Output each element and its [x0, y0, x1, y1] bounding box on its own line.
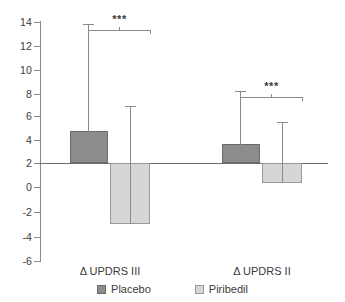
- y-tick-mark: [34, 116, 40, 117]
- y-tick-mark: [34, 22, 40, 23]
- y-tick-label: -6: [8, 256, 32, 266]
- y-tick-label: 14: [8, 17, 32, 27]
- y-tick-mark: [34, 70, 40, 71]
- bar-placebo-updrs2: [222, 144, 260, 163]
- significance-stars-updrs3: ***: [88, 14, 151, 25]
- y-tick-label: 0: [8, 182, 32, 192]
- y-tick-label: 6: [8, 111, 32, 121]
- y-tick-mark: [34, 237, 40, 238]
- error-bar-cap-piribedil-updrs2: [277, 122, 288, 123]
- y-tick-label: 4: [8, 135, 32, 145]
- legend-label-piribedil: Piribedil: [209, 284, 248, 295]
- y-tick-mark: [34, 94, 40, 95]
- bracket-notch: [119, 27, 120, 31]
- bracket-tick-right: [150, 30, 151, 34]
- y-tick-label: 2: [8, 158, 32, 168]
- y-tick-mark: [34, 261, 40, 262]
- error-bar-cap-piribedil-updrs3: [125, 106, 136, 107]
- legend-item-placebo: Placebo: [97, 284, 151, 295]
- y-tick-mark: [34, 140, 40, 141]
- legend-label-placebo: Placebo: [111, 284, 151, 295]
- bracket-notch: [271, 94, 272, 98]
- error-bar-stem-piribedil-updrs2: [282, 122, 283, 183]
- significance-bracket-updrs3: ***: [88, 22, 151, 36]
- y-tick-mark: [34, 212, 40, 213]
- y-tick-label: -2: [8, 207, 32, 217]
- category-label-updrs3: Δ UPDRS III: [56, 265, 164, 277]
- y-axis-line: [40, 21, 41, 262]
- y-tick-label: -4: [8, 232, 32, 242]
- legend-item-piribedil: Piribedil: [195, 284, 248, 295]
- category-label-updrs2: Δ UPDRS II: [208, 265, 316, 277]
- chart-legend: Placebo Piribedil: [0, 284, 345, 295]
- error-bar-stem-piribedil-updrs3: [130, 106, 131, 224]
- significance-stars-updrs2: ***: [240, 81, 303, 92]
- placebo-swatch-icon: [97, 285, 106, 294]
- bracket-tick-left: [240, 97, 241, 101]
- y-tick-label: 10: [8, 65, 32, 75]
- error-bar-stem-placebo-updrs3: [88, 24, 89, 132]
- piribedil-swatch-icon: [195, 285, 204, 294]
- bracket-tick-left: [88, 30, 89, 34]
- bar-placebo-updrs3: [70, 131, 108, 163]
- significance-bracket-updrs2: ***: [240, 89, 303, 103]
- bar-chart: 14 12 10 8 6 4 2 0 -2 -4 -6 ***: [0, 0, 345, 302]
- y-tick-mark: [34, 187, 40, 188]
- y-tick-mark: [34, 46, 40, 47]
- y-tick-label: 8: [8, 89, 32, 99]
- y-tick-label: 12: [8, 41, 32, 51]
- bracket-tick-right: [302, 97, 303, 101]
